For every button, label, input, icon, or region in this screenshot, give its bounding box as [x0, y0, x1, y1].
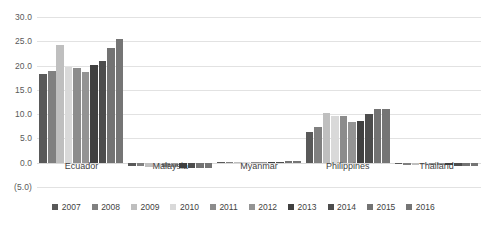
bar[interactable] — [374, 109, 382, 163]
legend-item[interactable]: 2013 — [288, 203, 316, 212]
bar[interactable] — [116, 39, 124, 162]
y-axis-tick-label: 20.0 — [15, 61, 32, 71]
bar[interactable] — [65, 67, 73, 163]
legend-swatch-icon — [367, 204, 373, 210]
category-axis-labels: EcuadorMalaysiaMyanmarPhilippinesThailan… — [37, 158, 481, 174]
gridline — [37, 187, 481, 188]
legend-swatch-icon — [406, 204, 412, 210]
legend-label: 2007 — [62, 203, 81, 212]
bar[interactable] — [90, 65, 98, 163]
legend-item[interactable]: 2008 — [92, 203, 120, 212]
y-axis-tick-label: 15.0 — [15, 85, 32, 95]
y-axis-tick-label: 30.0 — [15, 12, 32, 22]
legend-item[interactable]: 2014 — [328, 203, 356, 212]
legend-item[interactable]: 2007 — [52, 203, 80, 212]
legend-swatch-icon — [52, 204, 58, 210]
bar[interactable] — [48, 71, 56, 162]
legend-swatch-icon — [328, 204, 334, 210]
legend-item[interactable]: 2009 — [131, 203, 159, 212]
bar[interactable] — [56, 45, 64, 163]
bar[interactable] — [340, 116, 348, 163]
legend-label: 2011 — [219, 203, 237, 212]
bar[interactable] — [357, 121, 365, 162]
bar[interactable] — [39, 74, 47, 162]
y-axis-tick-label: 25.0 — [15, 36, 32, 46]
legend-swatch-icon — [170, 204, 176, 210]
y-axis-tick-label: 5.0 — [20, 133, 32, 143]
y-axis-tick-label: 10.0 — [15, 109, 32, 119]
bar-chart: 30.025.020.015.010.05.00.0(5.0) EcuadorM… — [0, 0, 487, 228]
bar[interactable] — [382, 109, 390, 162]
bar[interactable] — [348, 122, 356, 163]
bar[interactable] — [107, 48, 115, 163]
legend-label: 2016 — [416, 203, 435, 212]
chart-title-cropped — [0, 0, 487, 9]
legend-item[interactable]: 2016 — [406, 203, 434, 212]
category-label: Philippines — [303, 158, 392, 174]
legend-item[interactable]: 2010 — [170, 203, 198, 212]
legend-label: 2014 — [337, 203, 356, 212]
chart-legend: 2007200820092010201120122013201420152016 — [0, 198, 487, 216]
legend-item[interactable]: 2012 — [249, 203, 277, 212]
bar[interactable] — [323, 113, 331, 163]
legend-label: 2013 — [298, 203, 317, 212]
bar[interactable] — [99, 61, 107, 163]
legend-swatch-icon — [288, 204, 294, 210]
category-label: Myanmar — [215, 158, 304, 174]
legend-label: 2009 — [141, 203, 160, 212]
bar[interactable] — [82, 72, 90, 163]
bar[interactable] — [331, 116, 339, 163]
category-label: Malaysia — [126, 158, 215, 174]
legend-label: 2008 — [101, 203, 120, 212]
legend-label: 2010 — [180, 203, 199, 212]
y-axis-tick-label: (5.0) — [14, 182, 32, 192]
bar[interactable] — [365, 114, 373, 163]
category-label: Thailand — [392, 158, 481, 174]
legend-swatch-icon — [92, 204, 98, 210]
legend-label: 2012 — [258, 203, 277, 212]
category-label: Ecuador — [37, 158, 126, 174]
legend-swatch-icon — [210, 204, 216, 210]
bar[interactable] — [73, 68, 81, 163]
legend-label: 2015 — [376, 203, 395, 212]
y-axis-tick-label: 0.0 — [20, 158, 32, 168]
y-axis: 30.025.020.015.010.05.00.0(5.0) — [0, 0, 36, 228]
legend-item[interactable]: 2011 — [210, 203, 238, 212]
legend-item[interactable]: 2015 — [367, 203, 395, 212]
legend-swatch-icon — [249, 204, 255, 210]
legend-swatch-icon — [131, 204, 137, 210]
